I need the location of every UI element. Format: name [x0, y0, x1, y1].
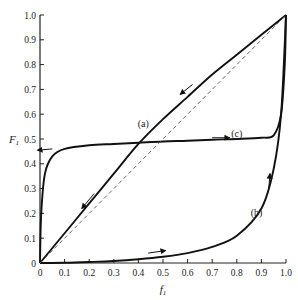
- y-tick-label: 0: [31, 259, 36, 269]
- x-tick-label: 0: [38, 268, 43, 278]
- curve-label: (a): [138, 118, 149, 130]
- y-tick-label: 0.7: [24, 85, 36, 95]
- y-tick-label: 0.9: [24, 35, 36, 45]
- y-tick-label: 0.8: [24, 60, 36, 70]
- x-tick-label: 0.6: [182, 268, 194, 278]
- x-tick-label: 0.1: [59, 268, 71, 278]
- y-axis-label: F1: [8, 133, 19, 147]
- chart: 00.10.20.30.40.50.60.70.80.91.000.10.20.…: [0, 0, 298, 300]
- x-tick-label: 0.8: [231, 268, 243, 278]
- x-tick-label: 0.3: [108, 268, 120, 278]
- y-tick-label: 0.4: [24, 159, 36, 169]
- y-tick-label: 0.3: [24, 184, 36, 194]
- x-tick-label: 0.2: [83, 268, 95, 278]
- x-tick-label: 0.7: [206, 268, 218, 278]
- curve-label: (c): [231, 128, 242, 140]
- y-tick-label: 0.5: [24, 135, 36, 145]
- curves: [38, 15, 286, 263]
- direction-arrow-icon: [148, 251, 165, 253]
- x-tick-label: 0.9: [255, 268, 267, 278]
- curve-label: (b): [251, 207, 263, 219]
- y-tick-label: 0.2: [24, 209, 36, 219]
- x-tick-label: 0.4: [132, 268, 144, 278]
- x-axis-label: f1: [160, 283, 167, 297]
- x-tick-label: 1.0: [280, 268, 292, 278]
- y-tick-label: 0.6: [24, 110, 36, 120]
- y-tick-label: 1.0: [24, 11, 36, 21]
- y-tick-label: 0.1: [24, 234, 36, 244]
- x-tick-label: 0.5: [157, 268, 169, 278]
